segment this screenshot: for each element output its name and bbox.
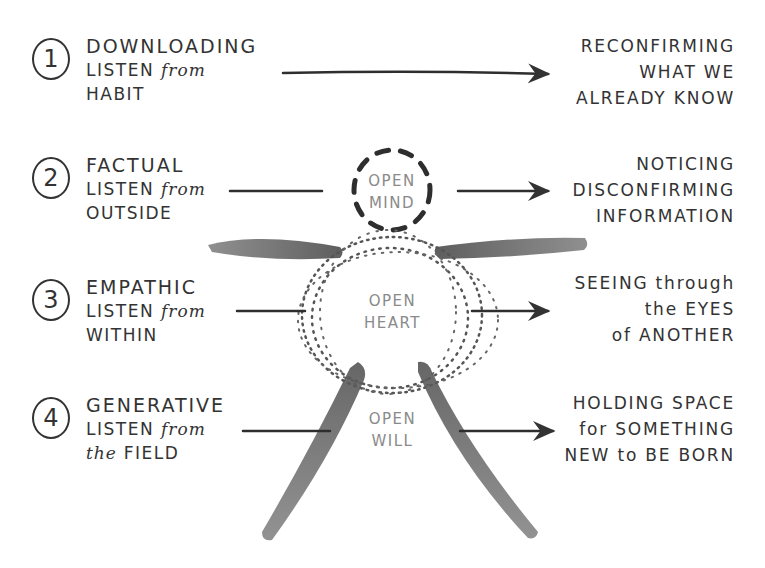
listening-levels-diagram: 1 DOWNLOADING LISTEN from HABIT RECONFIR… (0, 0, 765, 568)
level-3-result: SEEING through the EYES of ANOTHER (574, 270, 735, 348)
left-arm (208, 239, 343, 259)
level-4-result: HOLDING SPACE for SOMETHING NEW to BE BO… (565, 390, 735, 468)
level-listen-line: LISTEN from (86, 58, 257, 82)
open-heart-label: OPEN HEART (345, 290, 440, 334)
level-listen-line: LISTEN from (86, 299, 206, 323)
level-number-badge: 2 (32, 157, 70, 199)
level-label: FACTUAL LISTEN from OUTSIDE (86, 153, 206, 225)
arrow-level-1 (283, 72, 548, 74)
right-arm (435, 238, 588, 259)
level-label: EMPATHIC LISTEN from WITHIN (86, 275, 206, 347)
level-label: DOWNLOADING LISTEN from HABIT (86, 34, 257, 106)
level-title: DOWNLOADING (86, 34, 257, 58)
right-leg (418, 362, 538, 539)
level-source: OUTSIDE (86, 201, 206, 225)
open-will-label: OPEN WILL (355, 408, 430, 452)
level-title: GENERATIVE (86, 393, 225, 417)
level-source: the FIELD (86, 441, 225, 465)
level-number-badge: 4 (32, 397, 70, 439)
level-2-result: NOTICING DISCONFIRMING INFORMATION (573, 151, 735, 229)
level-number-badge: 3 (32, 279, 70, 321)
level-1-result: RECONFIRMING WHAT WE ALREADY KNOW (576, 33, 735, 111)
level-label: GENERATIVE LISTEN from the FIELD (86, 393, 225, 465)
level-listen-line: LISTEN from (86, 177, 206, 201)
level-title: EMPATHIC (86, 275, 206, 299)
level-source: HABIT (86, 82, 257, 106)
level-source: WITHIN (86, 323, 206, 347)
open-mind-label: OPEN MIND (352, 170, 432, 214)
left-leg (262, 362, 365, 540)
level-listen-line: LISTEN from (86, 417, 225, 441)
level-number-badge: 1 (32, 38, 70, 80)
level-title: FACTUAL (86, 153, 206, 177)
